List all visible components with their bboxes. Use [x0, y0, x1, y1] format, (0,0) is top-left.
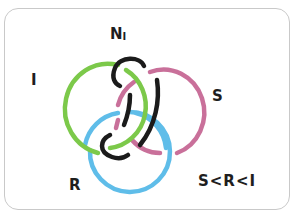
- ring-ni-black-segment: [124, 95, 130, 125]
- ring-s-pink-segment-3: [116, 120, 118, 128]
- diagram-canvas: NI I S R S<R<I: [0, 0, 297, 220]
- label-ring-r: R: [69, 178, 81, 193]
- ring-s-pink-segment: [132, 140, 160, 153]
- ring-i-green: [65, 64, 118, 153]
- label-ring-i: I: [31, 73, 37, 88]
- label-ordering: S<R<I: [198, 174, 256, 189]
- label-ring-s: S: [212, 89, 223, 104]
- label-n-i: NI: [110, 27, 126, 42]
